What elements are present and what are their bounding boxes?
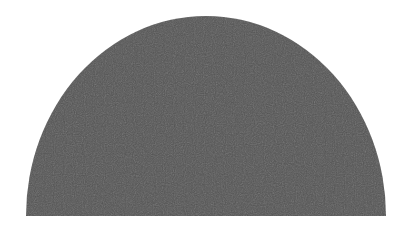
semicircle-shape [26,16,386,216]
semicircle-figure [0,0,412,231]
